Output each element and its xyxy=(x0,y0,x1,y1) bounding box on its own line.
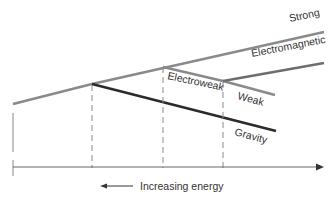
electromagnetic-label: Electromagnetic xyxy=(250,33,326,59)
strong-label: Strong xyxy=(288,6,321,24)
electroweak-label: Electroweak xyxy=(167,69,226,93)
unified-force-line xyxy=(13,84,92,104)
energy-axis-arrowhead-icon xyxy=(316,164,324,171)
electromagnetic-force-line xyxy=(223,63,324,81)
increasing-energy-label: Increasing energy xyxy=(140,180,224,192)
force-unification-diagram: Strong Electromagnetic Electroweak Weak … xyxy=(0,0,335,203)
left-arrow-icon xyxy=(100,184,107,189)
